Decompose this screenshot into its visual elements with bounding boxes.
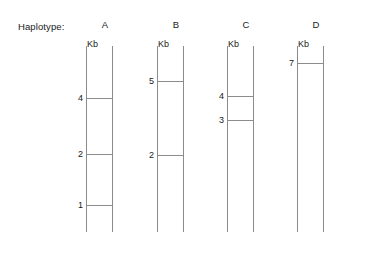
haplotype-figure: Haplotype: A Kb 4 2 1 B Kb 5 2 C Kb — [0, 0, 366, 253]
lane-b-band-2-label: 2 — [140, 151, 154, 160]
lane-c-band-2-label: 3 — [210, 116, 224, 125]
lane-a-band-1 — [86, 98, 113, 99]
lane-d-band-1 — [297, 63, 324, 64]
lane-b-bands: 5 2 — [146, 0, 206, 253]
lane-c-band-1-label: 4 — [210, 92, 224, 101]
lane-b-band-1-label: 5 — [140, 77, 154, 86]
lane-a-band-1-label: 4 — [69, 94, 83, 103]
lane-a-band-3-label: 1 — [69, 201, 83, 210]
haplotype-caption: Haplotype: — [18, 21, 64, 32]
lane-b: B Kb 5 2 — [146, 0, 206, 253]
lane-a-bands: 4 2 1 — [75, 0, 135, 253]
lane-c: C Kb 4 3 — [216, 0, 276, 253]
lane-b-band-2 — [157, 155, 184, 156]
lane-a: A Kb 4 2 1 — [75, 0, 135, 253]
lane-a-band-2 — [86, 154, 113, 155]
lane-a-band-3 — [86, 205, 113, 206]
lane-d-band-1-label: 7 — [280, 59, 294, 68]
lane-a-band-2-label: 2 — [69, 150, 83, 159]
lane-d: D Kb 7 — [286, 0, 346, 253]
lane-c-band-2 — [227, 120, 254, 121]
lane-d-bands: 7 — [286, 0, 346, 253]
lane-b-band-1 — [157, 81, 184, 82]
lane-c-band-1 — [227, 96, 254, 97]
lane-c-bands: 4 3 — [216, 0, 276, 253]
